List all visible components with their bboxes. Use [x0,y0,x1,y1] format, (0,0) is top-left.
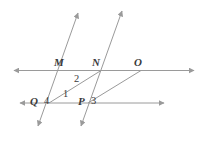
angle-label-3: 3 [91,96,96,107]
left-transversal-line [38,13,78,126]
right-transversal-line [81,11,122,126]
point-label-M: M [54,57,64,68]
angle-label-2: 2 [74,74,79,85]
point-label-Q: Q [30,96,38,107]
geometry-canvas [0,0,206,144]
point-label-P: P [78,96,85,107]
angle-label-1: 1 [63,89,68,100]
point-label-O: O [134,57,142,68]
angle-label-4: 4 [44,96,49,107]
point-label-N: N [92,57,100,68]
geometry-figure: M N O Q P 1 2 3 4 [0,0,206,144]
